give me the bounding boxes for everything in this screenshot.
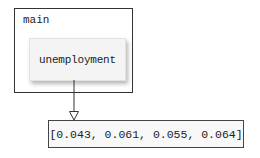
variable-name: unemployment [39,54,116,66]
list-value: [0.043, 0.061, 0.055, 0.064] [49,128,242,141]
arrowhead-icon [70,112,79,121]
list-value-box: [0.043, 0.061, 0.055, 0.064] [48,120,244,148]
variable-box: unemployment [29,38,126,81]
frame-label: main [23,14,49,26]
stack-frame-main: main unemployment [14,8,133,93]
